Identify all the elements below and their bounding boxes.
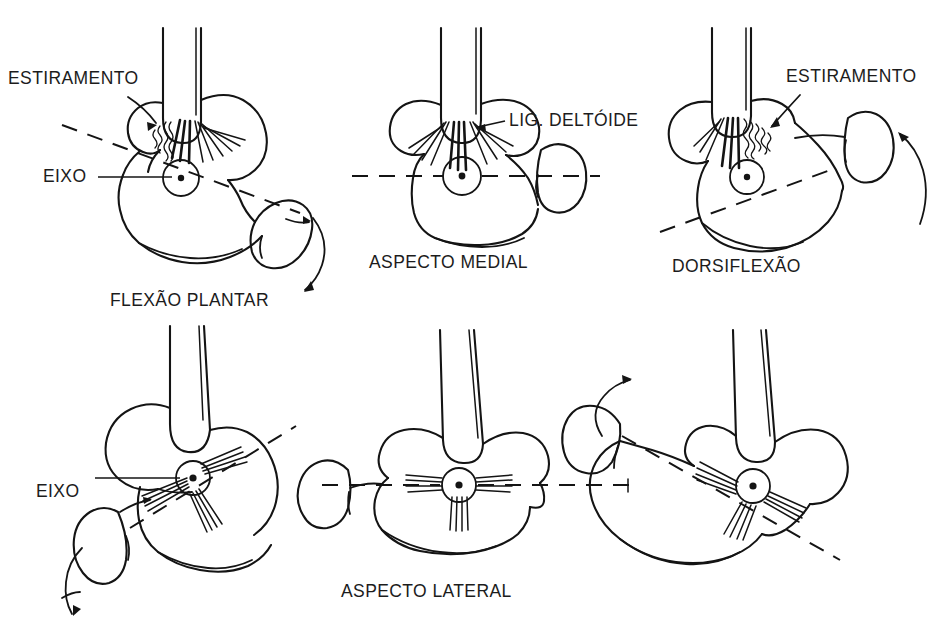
label-lig-deltoide: LIG. DELTÓIDE: [509, 112, 638, 130]
label-eixo-plantar-flexion: EIXO: [43, 168, 86, 186]
caption-aspecto-lateral: ASPECTO LATERAL: [341, 583, 512, 601]
panel-bottom-left-drawing: [62, 326, 296, 616]
panel-top-center-drawing: [352, 28, 600, 247]
panel-bottom-center-drawing: [298, 330, 630, 554]
caption-flexao-plantar: FLEXÃO PLANTAR: [110, 292, 269, 310]
caption-dorsiflexao: DORSIFLEXÃO: [672, 258, 801, 276]
figure-linework: [0, 0, 942, 626]
label-eixo-lateral: EIXO: [36, 483, 79, 501]
panel-top-right-drawing: [660, 28, 926, 252]
panel-bottom-right-drawing: [562, 330, 848, 564]
label-estiramento-dorsiflexion: ESTIRAMENTO: [786, 68, 916, 86]
label-estiramento-plantar-flexion: ESTIRAMENTO: [8, 70, 138, 88]
caption-aspecto-medial: ASPECTO MEDIAL: [369, 254, 528, 272]
anatomy-figure: ESTIRAMENTO EIXO FLEXÃO PLANTAR LIG. DEL…: [0, 0, 942, 626]
